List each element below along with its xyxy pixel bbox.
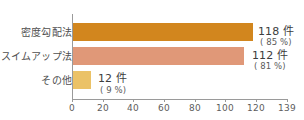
bar-series-1	[73, 47, 244, 65]
x-axis-tick-label-60: 60	[158, 103, 170, 113]
x-axis-tick-139	[287, 99, 288, 102]
percent-label-1: ( 81 %)	[254, 62, 286, 71]
x-axis-tick-label-0: 0	[69, 103, 75, 113]
x-axis-tick-100	[225, 99, 226, 102]
bar-series-0	[73, 23, 253, 41]
percent-label-0: ( 85 %)	[260, 38, 292, 47]
x-axis-tick-40	[133, 99, 134, 102]
x-axis-tick-label-20: 20	[97, 103, 109, 113]
category-label-0: 密度勾配法	[21, 27, 72, 38]
x-axis-tick-label-80: 80	[189, 103, 201, 113]
x-axis-tick-120	[256, 99, 257, 102]
x-axis-tick-80	[195, 99, 196, 102]
x-axis-tick-label-40: 40	[127, 103, 139, 113]
value-label-2: 12 件	[98, 73, 127, 85]
category-label-1: スイムアップ法	[1, 51, 72, 62]
x-axis-tick-20	[103, 99, 104, 102]
bar-series-2	[73, 71, 91, 89]
x-axis-tick-60	[164, 99, 165, 102]
x-axis-tick-label-139: 139	[278, 103, 296, 113]
x-axis-tick-label-100: 100	[216, 103, 234, 113]
bar-chart: 密度勾配法 スイムアップ法 その他 118 件 ( 85 %) 112 件 ( …	[0, 0, 304, 120]
x-axis-tick-label-120: 120	[247, 103, 265, 113]
x-axis-tick-0	[72, 99, 73, 102]
percent-label-2: ( 9 %)	[100, 86, 126, 95]
y-axis-line	[72, 14, 73, 99]
category-label-2: その他	[41, 75, 72, 86]
